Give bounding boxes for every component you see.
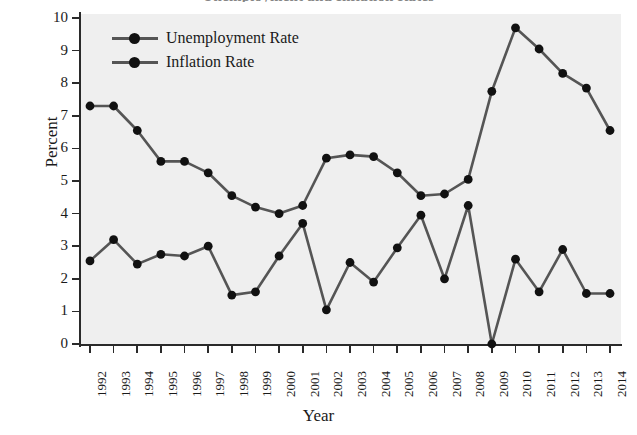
x-axis-label: Year — [0, 406, 637, 426]
x-tick-label: 1996 — [190, 371, 203, 397]
y-tick-label: 10 — [28, 10, 68, 25]
x-tick-label: 2005 — [402, 371, 415, 397]
x-tick — [515, 345, 517, 353]
x-tick — [278, 345, 280, 353]
legend-label: Inflation Rate — [166, 53, 254, 71]
x-tick — [89, 345, 91, 353]
x-tick-label: 1993 — [119, 371, 132, 397]
y-tick — [72, 213, 80, 215]
x-tick-label: 2004 — [379, 371, 392, 397]
x-tick-label: 2009 — [497, 371, 510, 397]
x-tick-label: 2013 — [591, 371, 604, 397]
x-tick — [302, 345, 304, 353]
chart-figure: Unemployment and Inflation Rates 0123456… — [0, 0, 637, 435]
y-tick — [72, 311, 80, 313]
x-tick-label: 2012 — [568, 371, 581, 397]
x-tick — [609, 345, 611, 353]
y-axis-label: Percent — [42, 82, 62, 202]
x-tick-label: 2006 — [426, 371, 439, 397]
y-tick — [72, 343, 80, 345]
x-tick — [420, 345, 422, 353]
x-tick-label: 2011 — [544, 371, 557, 397]
y-tick-label: 3 — [28, 238, 68, 253]
legend-marker-icon — [112, 55, 158, 69]
chart-legend: Unemployment Rate Inflation Rate — [112, 26, 342, 74]
legend-marker-icon — [112, 31, 158, 45]
y-tick — [72, 278, 80, 280]
chart-title: Unemployment and Inflation Rates — [0, 0, 637, 2]
x-tick-label: 2001 — [308, 371, 321, 397]
x-tick — [373, 345, 375, 353]
x-tick — [538, 345, 540, 353]
legend-item-unemployment: Unemployment Rate — [112, 26, 342, 50]
x-tick — [444, 345, 446, 353]
x-tick-label: 2003 — [355, 371, 368, 397]
x-tick-label: 2000 — [284, 371, 297, 397]
x-tick — [136, 345, 138, 353]
x-tick-label: 2014 — [615, 371, 628, 397]
x-tick-label: 1997 — [213, 371, 226, 397]
y-tick-label: 9 — [28, 43, 68, 58]
x-tick — [255, 345, 257, 353]
x-tick — [396, 345, 398, 353]
x-tick — [184, 345, 186, 353]
x-tick-label: 1999 — [260, 371, 273, 397]
x-tick-label: 1998 — [237, 371, 250, 397]
x-tick — [207, 345, 209, 353]
x-tick — [491, 345, 493, 353]
x-tick-label: 1994 — [142, 371, 155, 397]
x-tick — [349, 345, 351, 353]
x-tick-label: 1992 — [95, 371, 108, 397]
y-tick — [72, 17, 80, 19]
x-tick-label: 2008 — [473, 371, 486, 397]
x-tick — [231, 345, 233, 353]
y-tick-label: 1 — [28, 303, 68, 318]
y-tick-label: 2 — [28, 271, 68, 286]
x-tick — [586, 345, 588, 353]
y-tick — [72, 245, 80, 247]
x-tick — [562, 345, 564, 353]
x-tick — [467, 345, 469, 353]
legend-label: Unemployment Rate — [166, 29, 299, 47]
x-tick-label: 2002 — [331, 371, 344, 397]
y-tick — [72, 148, 80, 150]
legend-item-inflation: Inflation Rate — [112, 50, 342, 74]
y-tick — [72, 82, 80, 84]
x-tick-label: 2007 — [450, 371, 463, 397]
x-tick — [160, 345, 162, 353]
y-tick — [72, 180, 80, 182]
x-tick-label: 2010 — [520, 371, 533, 397]
y-tick-label: 4 — [28, 206, 68, 221]
y-tick — [72, 115, 80, 117]
x-tick-label: 1995 — [166, 371, 179, 397]
x-tick — [113, 345, 115, 353]
y-tick-label: 0 — [28, 336, 68, 351]
y-tick — [72, 50, 80, 52]
x-tick — [326, 345, 328, 353]
